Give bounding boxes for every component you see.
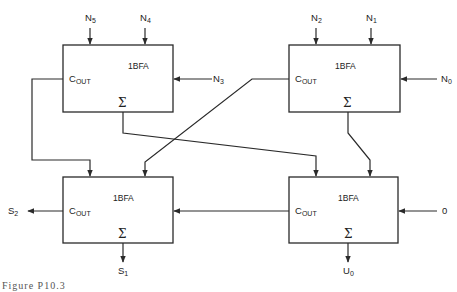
output-s0: U0	[343, 243, 354, 277]
wire-tl-sum-to-br	[123, 112, 316, 176]
input-zero: 0	[399, 205, 447, 216]
input-label: N1	[366, 12, 377, 24]
block-title: 1BFA	[113, 193, 134, 203]
figure-caption: Figure P10.3	[2, 280, 66, 291]
input-n2: N2	[311, 12, 322, 44]
output-s1: S1	[118, 243, 128, 277]
input-label: N4	[140, 12, 151, 24]
block-title: 1BFA	[335, 61, 356, 71]
input-n4: N4	[140, 12, 151, 44]
wire-tr-sum-to-br	[348, 112, 370, 176]
block-title: 1BFA	[338, 193, 359, 203]
block-title: 1BFA	[128, 61, 149, 71]
sum-label: Σ	[344, 227, 352, 241]
input-n3: N3	[174, 73, 224, 85]
block-top-right: 1BFA COUT Σ	[289, 45, 400, 112]
block-top-left: 1BFA COUT Σ	[63, 45, 173, 112]
sum-label: Σ	[343, 96, 351, 110]
output-label: U0	[343, 265, 354, 277]
output-label: S2	[8, 205, 18, 217]
input-label: N5	[85, 12, 96, 24]
output-label: S1	[118, 265, 128, 277]
input-n5: N5	[85, 12, 96, 44]
input-label: N3	[213, 73, 224, 85]
input-label: N2	[311, 12, 322, 24]
input-n1: N1	[366, 12, 377, 44]
block-bottom-right: 1BFA COUT Σ	[289, 177, 398, 243]
input-label: 0	[442, 205, 447, 216]
block-bottom-left: 1BFA COUT Σ	[63, 177, 173, 243]
sum-label: Σ	[118, 96, 126, 110]
input-n0: N0	[401, 73, 452, 85]
sum-label: Σ	[118, 227, 126, 241]
output-s2: S2	[8, 205, 63, 217]
input-label: N0	[441, 73, 452, 85]
